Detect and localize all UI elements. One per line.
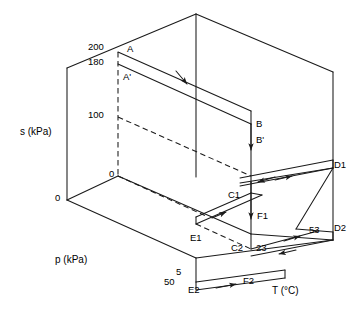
s-tick-180: 180 — [88, 57, 104, 67]
t-axis-label: T (°C) — [272, 286, 299, 296]
process-diagram-figure: 200 180 100 0 0 s (kPa) p (kPa) T (°C) 5… — [0, 0, 362, 319]
point-label-E1: E1 — [190, 233, 202, 243]
p-tick-50: 50 — [164, 277, 175, 287]
t-tick-5: 5 — [176, 267, 181, 277]
point-label-A: A — [127, 44, 133, 54]
point-label-B: B — [256, 119, 262, 129]
point-label-E2: E2 — [188, 285, 200, 295]
point-label-A-prime: A' — [123, 72, 131, 82]
s-tick-100: 100 — [88, 110, 104, 120]
origin-label: 0 — [55, 193, 60, 203]
process-path-C1-to-D1 — [240, 160, 333, 186]
s-tick-200: 200 — [88, 42, 104, 52]
s-axis-label: s (kPa) — [20, 127, 52, 137]
point-label-C2: C2 — [231, 243, 243, 253]
point-label-C1: C1 — [228, 190, 240, 200]
process-path-A-to-B — [118, 52, 251, 124]
s-tick-0: 0 — [109, 169, 114, 179]
point-label-F1: F1 — [257, 211, 268, 221]
p-axis-label: p (kPa) — [55, 255, 87, 265]
t-tick-23: 23 — [256, 243, 267, 253]
point-label-D2: D2 — [334, 223, 346, 233]
t-tick-53: 53 — [309, 225, 320, 235]
point-label-F2: F2 — [243, 276, 254, 286]
box-outline — [67, 14, 333, 258]
point-label-B-prime: B' — [256, 135, 264, 145]
point-label-D1: D1 — [334, 160, 346, 170]
